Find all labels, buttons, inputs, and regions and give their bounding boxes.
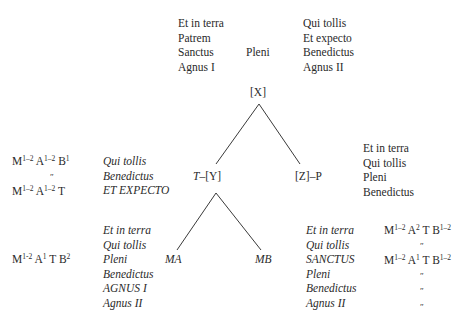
section-label: ET EXPECTO [103, 183, 169, 198]
node-mb: MB [255, 252, 272, 267]
ty-sections: Qui tollis Benedictus ET EXPECTO [103, 154, 169, 198]
section-label: Qui tollis [363, 156, 414, 171]
edge-root-left [216, 104, 259, 164]
section-label: Sanctus [178, 45, 224, 60]
section-label: Et in terra [103, 223, 153, 238]
section-label: Benedictus [306, 281, 356, 296]
mb-sections: Et in terra Qui tollis SANCTUS Pleni Ben… [306, 223, 356, 311]
formula: M1–2 A2 T B1–2 [384, 223, 451, 238]
section-label: Et expecto [303, 31, 354, 46]
ditto-mark: ″ [384, 299, 451, 315]
section-label: Pleni [363, 170, 414, 185]
ditto-mark: ″ [12, 169, 70, 185]
section-label: Et in terra [178, 16, 224, 31]
section-label: Et in terra [306, 223, 356, 238]
formula: M1–2 A1–2 T [12, 184, 70, 199]
node-z-p: [Z]–P [295, 169, 322, 184]
ma-sections: Et in terra Qui tollis Pleni Benedictus … [103, 223, 153, 311]
root-right-sections: Qui tollis Et expecto Benedictus Agnus I… [303, 16, 354, 74]
section-label: Qui tollis [103, 238, 153, 253]
section-label: Qui tollis [306, 238, 356, 253]
node-t-y: T–[Y] [193, 169, 221, 184]
ditto-mark: ″ [384, 238, 451, 254]
section-label: Benedictus [103, 169, 169, 184]
node-ma: MA [165, 252, 182, 267]
ditto-mark: ″ [384, 268, 451, 284]
section-label: Pleni [306, 267, 356, 282]
section-label: Agnus II [303, 60, 354, 75]
ty-formulas: M1–2 A1–2 B1 ″ M1–2 A1–2 T [12, 154, 70, 199]
formula: M1–2 A1 T B1–2 [384, 253, 451, 268]
section-label: Patrem [178, 31, 224, 46]
section-label: AGNUS I [103, 281, 153, 296]
root-center-section: Pleni [246, 45, 270, 60]
root-left-sections: Et in terra Patrem Sanctus Agnus I [178, 16, 224, 74]
mb-formulas: M1–2 A2 T B1–2 ″ M1–2 A1 T B1–2 ″ ″ ″ [384, 223, 451, 315]
formula: M1–2 A1–2 B1 [12, 154, 70, 169]
edge-root-right [259, 104, 300, 164]
section-label: Agnus II [306, 296, 356, 311]
zp-sections: Et in terra Qui tollis Pleni Benedictus [363, 141, 414, 199]
section-label: Agnus II [103, 296, 153, 311]
section-label: Benedictus [103, 267, 153, 282]
edge-y-mb [216, 193, 261, 250]
section-label: Benedictus [303, 45, 354, 60]
ma-formula: M1-2 A1 T B2 [12, 252, 70, 267]
section-label: Agnus I [178, 60, 224, 75]
section-label: Qui tollis [103, 154, 169, 169]
node-root: [X] [250, 85, 266, 100]
section-label: SANCTUS [306, 252, 356, 267]
section-label: Pleni [103, 252, 153, 267]
section-label: Et in terra [363, 141, 414, 156]
ditto-mark: ″ [384, 283, 451, 299]
edge-y-ma [177, 193, 216, 250]
section-label: Benedictus [363, 185, 414, 200]
section-label: Qui tollis [303, 16, 354, 31]
